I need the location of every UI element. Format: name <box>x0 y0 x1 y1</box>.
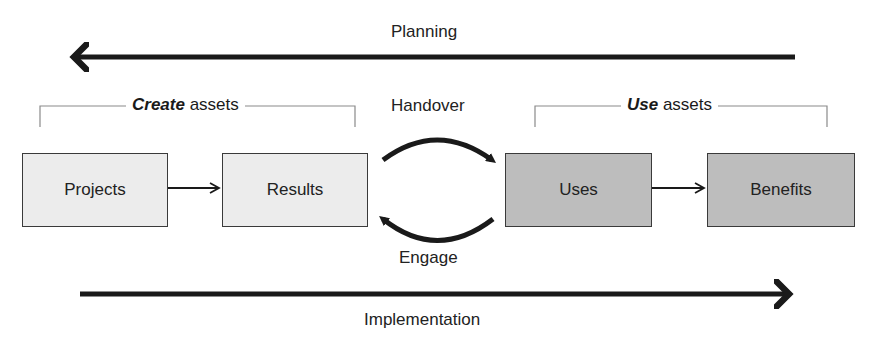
create-assets-label: Create assets <box>126 95 245 115</box>
projects-box-label: Projects <box>64 180 125 200</box>
engage-arrow <box>383 219 493 241</box>
implementation-label: Implementation <box>364 310 480 330</box>
results-box: Results <box>222 153 368 227</box>
handover-arrow <box>383 140 492 160</box>
use-rest: assets <box>658 95 712 114</box>
engage-label: Engage <box>399 248 458 268</box>
create-emphasis: Create <box>132 95 185 114</box>
benefits-box: Benefits <box>707 153 855 227</box>
planning-label: Planning <box>391 22 457 42</box>
create-rest: assets <box>185 95 239 114</box>
projects-box: Projects <box>22 153 168 227</box>
uses-box-label: Uses <box>559 180 598 200</box>
handover-label: Handover <box>391 96 465 116</box>
uses-box: Uses <box>505 153 652 227</box>
results-box-label: Results <box>267 180 324 200</box>
benefits-box-label: Benefits <box>750 180 811 200</box>
use-emphasis: Use <box>627 95 658 114</box>
use-assets-label: Use assets <box>621 95 718 115</box>
